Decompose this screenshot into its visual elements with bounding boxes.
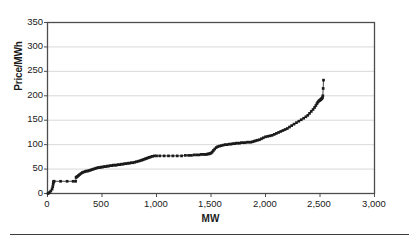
gridlines <box>48 23 375 170</box>
axis-tick-marks <box>44 23 375 198</box>
x-axis-title: MW <box>47 212 374 226</box>
plot-area <box>0 0 419 245</box>
footer-divider <box>10 234 409 235</box>
supply-curve-figure: Price/MWh 350 300 250 200 150 100 50 0 0… <box>0 0 419 245</box>
